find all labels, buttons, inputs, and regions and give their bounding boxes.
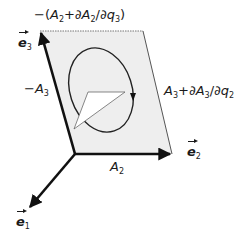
- left-edge-label: −A3: [24, 82, 49, 98]
- e3-index: 3: [27, 43, 32, 52]
- right-a: A: [164, 83, 173, 98]
- e1-label: e1: [16, 215, 30, 231]
- e1-axis-arrow: [30, 154, 75, 207]
- e1-symbol: e: [16, 215, 25, 228]
- top-prefix: −(: [34, 7, 50, 22]
- top-a: A: [50, 7, 59, 22]
- right-plus: +∂: [178, 83, 196, 98]
- e3-label: e3: [18, 36, 32, 52]
- top-edge-label: −(A2+∂A2/∂q3): [34, 8, 125, 24]
- top-plus: +∂: [64, 7, 82, 22]
- diagram-canvas: [0, 0, 248, 243]
- right-slash: /∂: [210, 83, 221, 98]
- e2-symbol: e: [187, 145, 196, 158]
- left-a: A: [35, 81, 44, 96]
- bottom-a: A: [110, 159, 119, 174]
- top-close: ): [120, 7, 125, 22]
- e2-index: 2: [196, 152, 201, 161]
- top-q: q: [107, 7, 115, 22]
- right-edge-label: A3+∂A3/∂q2: [164, 84, 234, 100]
- bottom-a-index: 2: [119, 167, 124, 176]
- top-b: A: [82, 7, 91, 22]
- top-slash: /∂: [96, 7, 107, 22]
- right-q: q: [221, 83, 229, 98]
- bottom-edge-label: A2: [110, 160, 124, 176]
- left-prefix: −: [24, 81, 35, 96]
- left-a-index: 3: [44, 89, 49, 98]
- e1-index: 1: [25, 222, 30, 231]
- e3-symbol: e: [18, 36, 27, 49]
- e2-label: e2: [187, 145, 201, 161]
- right-b: A: [196, 83, 205, 98]
- right-q-index: 2: [229, 91, 234, 100]
